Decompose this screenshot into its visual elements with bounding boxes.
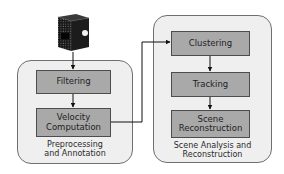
stage-velocity-computation: Velocity Computation xyxy=(36,108,111,137)
stage-velocity-label-line2: Computation xyxy=(46,123,101,133)
pipeline-diagram: Filtering Velocity Computation Preproces… xyxy=(0,0,284,174)
stage-clustering-label: Clustering xyxy=(189,39,232,49)
caption-line-2: Reconstruction xyxy=(153,151,272,160)
stage-filtering-label: Filtering xyxy=(56,77,90,87)
stage-tracking: Tracking xyxy=(171,72,250,97)
lidar-sensor-icon xyxy=(55,11,93,53)
stage-scene-reconstruction: Scene Reconstruction xyxy=(171,110,250,138)
stage-tracking-label: Tracking xyxy=(193,80,228,90)
stage-filtering: Filtering xyxy=(36,70,111,94)
stage-clustering: Clustering xyxy=(171,31,250,56)
group-scene-analysis-caption: Scene Analysis and Reconstruction xyxy=(153,142,272,159)
stage-scene-label-line2: Reconstruction xyxy=(179,124,243,134)
group-preprocessing-caption: Preprocessing and Annotation xyxy=(17,141,133,158)
caption-line-2: and Annotation xyxy=(17,150,133,159)
